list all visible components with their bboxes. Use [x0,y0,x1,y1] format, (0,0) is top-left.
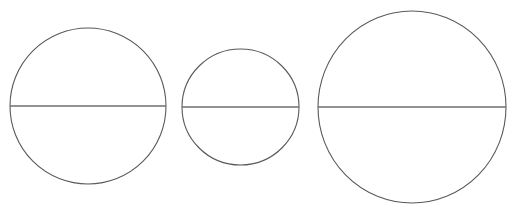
circles-figure [0,0,528,214]
diagram-canvas [0,0,528,214]
